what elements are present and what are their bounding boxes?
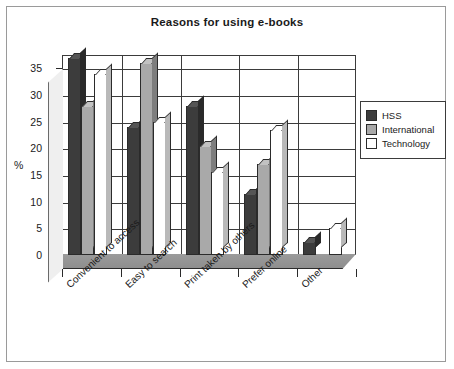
legend: HSSInternationalTechnology bbox=[360, 101, 446, 159]
x-axis-tick bbox=[356, 269, 357, 277]
legend-swatch-icon bbox=[366, 138, 377, 149]
bar bbox=[329, 228, 342, 255]
y-axis-tick-label: 20 bbox=[16, 142, 42, 154]
bar bbox=[303, 242, 316, 255]
bar-side-face bbox=[165, 111, 171, 248]
legend-item[interactable]: International bbox=[366, 124, 441, 135]
bar bbox=[199, 146, 212, 255]
left-wall-3d bbox=[48, 69, 63, 283]
y-axis-tick-label: 5 bbox=[16, 222, 42, 234]
bar-side-face bbox=[223, 162, 229, 248]
x-axis-tick bbox=[180, 269, 181, 277]
x-axis-tick bbox=[62, 269, 63, 277]
bar bbox=[81, 106, 94, 255]
x-axis-tick bbox=[297, 269, 298, 277]
bar bbox=[153, 122, 166, 255]
legend-swatch-icon bbox=[366, 110, 377, 121]
legend-swatch-icon bbox=[366, 124, 377, 135]
y-axis-tick-label: 10 bbox=[16, 196, 42, 208]
legend-item-label: Technology bbox=[382, 138, 430, 149]
x-axis-tick bbox=[238, 269, 239, 277]
x-axis-labels: Convenient to accessEasy to searchPrint … bbox=[0, 0, 454, 100]
chart-figure: Reasons for using e-books % 051015202530… bbox=[0, 0, 454, 369]
y-axis-tick-label: 0 bbox=[16, 249, 42, 261]
legend-item[interactable]: Technology bbox=[366, 138, 441, 149]
bar bbox=[94, 74, 107, 255]
bar-side-face bbox=[341, 218, 347, 248]
bar-side-face bbox=[315, 231, 321, 248]
bar bbox=[257, 164, 270, 255]
y-axis-tick-label: 15 bbox=[16, 169, 42, 181]
bar bbox=[186, 106, 199, 255]
bar-side-face bbox=[282, 119, 288, 248]
legend-item-label: International bbox=[382, 124, 434, 135]
legend-item-label: HSS bbox=[382, 110, 402, 121]
bar bbox=[270, 130, 283, 255]
y-axis-tick-label: 25 bbox=[16, 116, 42, 128]
legend-item[interactable]: HSS bbox=[366, 110, 441, 121]
x-axis-tick bbox=[121, 269, 122, 277]
